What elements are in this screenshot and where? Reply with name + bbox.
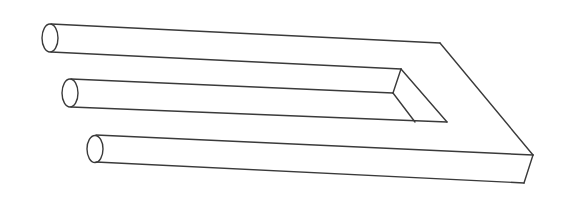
top-prong-end-ellipse <box>42 24 58 52</box>
illusion-figure: Impossible trident (blivet) line drawing <box>0 0 573 204</box>
outer-diagonal-line <box>440 43 533 155</box>
top-prong-lower-edge-line <box>51 52 401 69</box>
middle-prong-end-ellipse <box>62 79 78 107</box>
impossible-trident-drawing <box>0 0 573 204</box>
bottom-prong-lower-edge-line <box>96 162 524 183</box>
end-face-edge-line <box>524 155 533 183</box>
inner-diagonal-short-line <box>393 93 415 122</box>
top-outer-edge-line <box>51 24 440 43</box>
inner-notch-vertical-line <box>393 69 401 93</box>
middle-prong-lower-edge-line <box>71 107 447 122</box>
inner-diagonal-long-line <box>401 69 447 122</box>
bottom-prong-upper-edge-line <box>96 135 533 155</box>
middle-prong-upper-edge-line <box>71 79 393 93</box>
bottom-prong-end-ellipse <box>87 136 103 163</box>
